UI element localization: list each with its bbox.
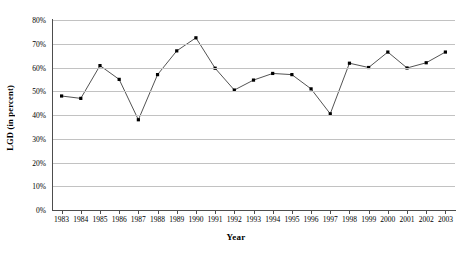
y-tick-label: 10%	[32, 182, 46, 191]
y-tick-label: 0%	[36, 206, 46, 215]
x-tick-label: 2000	[380, 215, 395, 224]
x-tick-label: 1985	[92, 215, 107, 224]
x-tick-label: 1987	[131, 215, 146, 224]
plot-area	[52, 20, 455, 210]
x-tick-label: 1991	[208, 215, 223, 224]
data-point-marker	[309, 87, 312, 90]
x-tick-label: 1997	[323, 215, 338, 224]
y-tick-label: 80%	[32, 16, 46, 25]
x-tick-label: 1992	[227, 215, 242, 224]
data-point-marker	[118, 78, 121, 81]
data-point-marker	[252, 78, 255, 81]
gridline-60	[52, 68, 455, 69]
x-tick-mark	[234, 211, 235, 214]
gridline-80	[52, 20, 455, 21]
gridline-10	[52, 186, 455, 187]
gridline-70	[52, 44, 455, 45]
x-tick-mark	[177, 211, 178, 214]
y-axis-tick-labels: 0%10%20%30%40%50%60%70%80%	[18, 0, 50, 230]
y-tick-label: 30%	[32, 134, 46, 143]
x-tick-label: 1996	[304, 215, 319, 224]
x-tick-mark	[100, 211, 101, 214]
data-point-marker	[290, 73, 293, 76]
x-tick-label: 1994	[265, 215, 280, 224]
gridline-40	[52, 115, 455, 116]
x-tick-label: 1986	[112, 215, 127, 224]
x-tick-label: 1984	[73, 215, 88, 224]
y-tick-label: 50%	[32, 87, 46, 96]
gridline-20	[52, 163, 455, 164]
data-point-marker	[444, 50, 447, 53]
data-point-marker	[175, 49, 178, 52]
x-tick-mark	[426, 211, 427, 214]
x-tick-label: 2002	[419, 215, 434, 224]
gridline-50	[52, 91, 455, 92]
x-tick-label: 1998	[342, 215, 357, 224]
x-tick-mark	[292, 211, 293, 214]
x-tick-label: 2001	[400, 215, 415, 224]
y-tick-label: 70%	[32, 39, 46, 48]
x-tick-label: 1989	[169, 215, 184, 224]
x-tick-mark	[388, 211, 389, 214]
y-tick-label: 60%	[32, 63, 46, 72]
x-tick-label: 2003	[438, 215, 453, 224]
x-tick-mark	[62, 211, 63, 214]
y-axis-line	[52, 19, 53, 211]
x-tick-mark	[369, 211, 370, 214]
x-tick-mark	[119, 211, 120, 214]
line-chart: LGD (in percent) 0%10%20%30%40%50%60%70%…	[0, 0, 472, 253]
data-point-marker	[60, 94, 63, 97]
x-tick-mark	[407, 211, 408, 214]
x-tick-mark	[138, 211, 139, 214]
x-tick-mark	[254, 211, 255, 214]
y-tick-label: 20%	[32, 158, 46, 167]
x-tick-mark	[215, 211, 216, 214]
x-tick-label: 1993	[246, 215, 261, 224]
y-axis-title: LGD (in percent)	[2, 55, 18, 180]
data-point-marker	[156, 73, 159, 76]
x-tick-mark	[81, 211, 82, 214]
data-point-marker	[271, 72, 274, 75]
gridline-30	[52, 139, 455, 140]
x-tick-mark	[349, 211, 350, 214]
x-tick-label: 1983	[54, 215, 69, 224]
data-point-marker	[348, 62, 351, 65]
data-point-marker	[194, 36, 197, 39]
x-axis-title: Year	[0, 232, 472, 242]
x-tick-mark	[445, 211, 446, 214]
data-point-marker	[425, 61, 428, 64]
x-tick-mark	[330, 211, 331, 214]
x-tick-label: 1999	[361, 215, 376, 224]
data-point-marker	[137, 118, 140, 121]
x-tick-label: 1995	[284, 215, 299, 224]
x-tick-label: 1988	[150, 215, 165, 224]
data-point-marker	[386, 50, 389, 53]
x-tick-mark	[196, 211, 197, 214]
x-tick-label: 1990	[188, 215, 203, 224]
x-tick-mark	[158, 211, 159, 214]
x-tick-mark	[311, 211, 312, 214]
y-tick-label: 40%	[32, 111, 46, 120]
y-axis-title-text: LGD (in percent)	[5, 85, 15, 151]
x-tick-mark	[273, 211, 274, 214]
data-point-marker	[79, 97, 82, 100]
